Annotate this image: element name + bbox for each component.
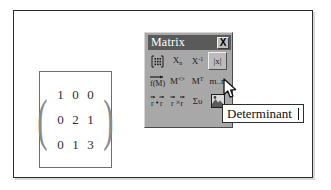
determinant-icon[interactable]: |x|: [208, 52, 227, 70]
matrix-subscript-icon[interactable]: Xn: [168, 52, 187, 70]
matrix-column-label: M<>: [170, 76, 185, 86]
svg-text:r: r: [151, 99, 154, 107]
vectorize-arrow-icon[interactable]: f(M): [148, 72, 167, 90]
matrix-cell: 0: [57, 112, 64, 128]
matrix-cell: 1: [72, 137, 79, 153]
matrix-column-icon[interactable]: M<>: [168, 72, 187, 90]
matrix-grid: 1 0 0 0 2 1 0 1 3: [53, 82, 98, 157]
toolbar-title: Matrix: [148, 36, 185, 49]
close-icon[interactable]: X: [217, 37, 229, 49]
tooltip-text: Determinant: [227, 106, 292, 122]
tooltip-caret: [298, 108, 299, 120]
page-frame: ( 1 0 0 0 2 1 0 1 3 ) Matrix X: [13, 10, 313, 178]
toolbar-button-grid: Xn X-1 |x| f(M) M<> MT: [148, 52, 231, 111]
vector-sum-icon[interactable]: Συ: [188, 92, 207, 110]
mouse-pointer: [223, 78, 238, 100]
vector-sum-label: Συ: [193, 97, 203, 106]
svg-text:r: r: [181, 99, 184, 107]
determinant-label: |x|: [213, 57, 221, 66]
matrix-cell: 0: [87, 87, 94, 103]
toolbar-title-bar[interactable]: Matrix X: [148, 35, 231, 50]
matrix-toolbar-palette[interactable]: Matrix X Xn X-1: [144, 32, 233, 128]
matrix-cell: 3: [87, 137, 94, 153]
svg-text:r: r: [171, 99, 174, 107]
matrix-result: ( 1 0 0 0 2 1 0 1 3 ): [40, 72, 111, 167]
tooltip-determinant: Determinant: [222, 104, 304, 123]
matrix-cell: 2: [72, 112, 79, 128]
cross-product-icon[interactable]: r × r: [168, 92, 187, 110]
matrix-result-box: ( 1 0 0 0 2 1 0 1 3 ): [39, 71, 112, 168]
matrix-transpose-label: MT: [192, 76, 204, 86]
matrix-cell: 1: [57, 87, 64, 103]
matrix-subscript-label: Xn: [173, 56, 183, 66]
insert-matrix-icon[interactable]: [148, 52, 167, 70]
matrix-cell: 0: [57, 137, 64, 153]
matrix-inverse-icon[interactable]: X-1: [188, 52, 207, 70]
dot-product-icon[interactable]: r r: [148, 92, 167, 110]
matrix-transpose-icon[interactable]: MT: [188, 72, 207, 90]
svg-text:r: r: [160, 99, 163, 107]
matrix-inverse-label: X-1: [192, 56, 204, 66]
svg-text:f(M): f(M): [150, 79, 165, 88]
matrix-cell: 0: [72, 87, 79, 103]
matrix-cell: 1: [87, 112, 94, 128]
